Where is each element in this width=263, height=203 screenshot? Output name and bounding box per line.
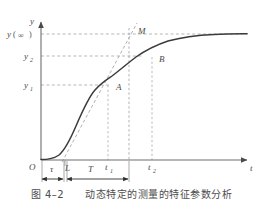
y1-label: y 1 [23,80,33,92]
y2-label: y 2 [23,51,33,63]
t2-subscript: 2 [153,168,156,174]
point-label-A: A [115,82,122,92]
x-axis-label: t [250,163,253,173]
y-infinity-paren-open: ( [13,30,16,39]
point-label-M: M [137,26,146,36]
figure-caption-text: 图 4–2 动态特定的测量的特征参数分析 [31,186,232,201]
y-infinity-base: y [6,29,11,39]
y-axis-label: y [29,16,34,26]
infinity-symbol: ∞ [18,31,24,40]
y1-subscript: 1 [30,86,33,92]
t1-subscript: 1 [110,168,113,174]
point-label-B: B [159,54,165,64]
x-label-tau: τ [50,164,54,174]
t1-base: t [105,162,108,172]
origin-label: O [29,162,36,172]
step-response-diagram: y t O y ( ∞ ) y 2 y 1 A B M τ L T t 1 [0,0,263,203]
y1-base: y [23,80,28,90]
y2-subscript: 2 [30,57,33,63]
y-infinity-label: y ( ∞ ) [6,29,32,40]
y2-base: y [23,51,28,61]
figure-caption: 图 4–2 动态特定的测量的特征参数分析 [0,186,263,203]
x-label-t1: t 1 [105,162,113,174]
tangent-line [62,23,137,162]
figure-container: y t O y ( ∞ ) y 2 y 1 A B M τ L T t 1 [0,0,263,203]
response-curve [41,34,247,160]
x-label-t2: t 2 [148,162,156,174]
x-label-T: T [88,164,94,174]
t2-base: t [148,162,151,172]
y-infinity-paren-close: ) [29,30,32,39]
